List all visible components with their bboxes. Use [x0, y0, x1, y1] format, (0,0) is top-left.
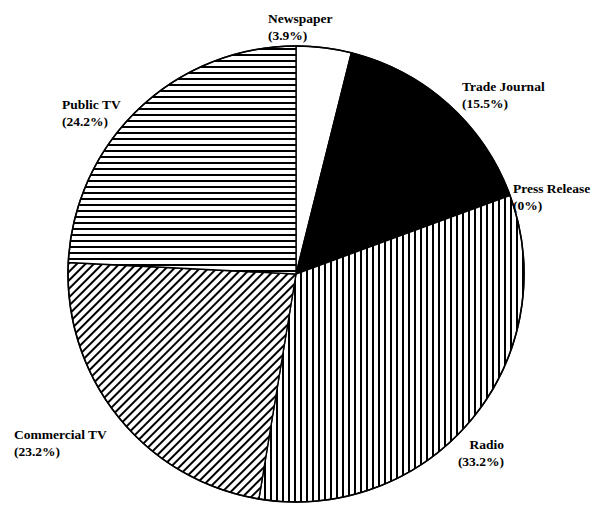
- pie-chart-figure: Newspaper (3.9%) Trade Journal (15.5%) P…: [0, 0, 616, 528]
- pie-label-press-release-name: Press Release: [513, 180, 590, 197]
- pie-label-public-tv: Public TV (24.2%): [62, 96, 121, 130]
- pie-label-public-tv-percent: (24.2%): [62, 113, 121, 130]
- pie-slice-public-tv[interactable]: [68, 46, 296, 274]
- pie-label-trade-journal-name: Trade Journal: [462, 78, 545, 95]
- pie-label-radio-name: Radio: [394, 436, 504, 453]
- pie-label-trade-journal: Trade Journal (15.5%): [462, 78, 545, 112]
- pie-label-press-release: Press Release (0%): [513, 180, 590, 214]
- pie-slice-commercial-tv[interactable]: [68, 263, 296, 499]
- pie-label-newspaper-name: Newspaper: [268, 10, 333, 27]
- pie-label-radio-percent: (33.2%): [394, 453, 504, 470]
- pie-slice-group: [68, 46, 524, 502]
- pie-label-newspaper: Newspaper (3.9%): [268, 10, 333, 44]
- pie-label-commercial-tv-name: Commercial TV: [14, 426, 107, 443]
- pie-label-press-release-percent: (0%): [513, 197, 590, 214]
- pie-label-radio: Radio (33.2%): [394, 436, 504, 470]
- pie-label-trade-journal-percent: (15.5%): [462, 95, 545, 112]
- pie-label-commercial-tv: Commercial TV (23.2%): [14, 426, 107, 460]
- pie-label-public-tv-name: Public TV: [62, 96, 121, 113]
- pie-label-newspaper-percent: (3.9%): [268, 27, 333, 44]
- pie-label-commercial-tv-percent: (23.2%): [14, 443, 107, 460]
